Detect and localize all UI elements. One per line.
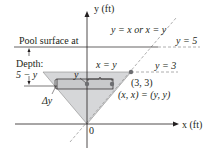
origin-label: 0 — [89, 125, 94, 136]
delta-y-label: Δy — [41, 95, 53, 106]
y-label: y — [73, 69, 79, 80]
depth-arrow-up-icon — [28, 48, 31, 52]
delta-y-leader — [52, 86, 56, 94]
x-axis-label: x (ft) — [182, 119, 202, 131]
y-axis-arrow-icon — [85, 11, 90, 17]
pool-surface-label: Pool surface at — [19, 35, 79, 46]
x-axis-arrow-icon — [173, 122, 179, 127]
line-yx-label: y = x or x = y — [110, 24, 167, 35]
pool-diagram: y (ft) x (ft) 0 Pool surface at Depth: 5… — [0, 0, 210, 148]
point-33-label: (3, 3) — [131, 77, 153, 89]
line-y3-label: y = 3 — [154, 60, 176, 71]
point-xx — [110, 82, 114, 86]
line-y5-label: y = 5 — [175, 35, 197, 46]
point-on-axis — [85, 82, 89, 86]
point-xx-label: (x, x) = (y, y) — [118, 89, 171, 101]
width-label: x = y — [95, 59, 117, 70]
depth-expression: 5 − y — [16, 69, 38, 80]
point-33 — [129, 70, 133, 74]
y-axis-label: y (ft) — [94, 3, 114, 15]
depth-label: Depth: — [16, 58, 43, 69]
depth-arrow-down-icon — [28, 81, 31, 85]
